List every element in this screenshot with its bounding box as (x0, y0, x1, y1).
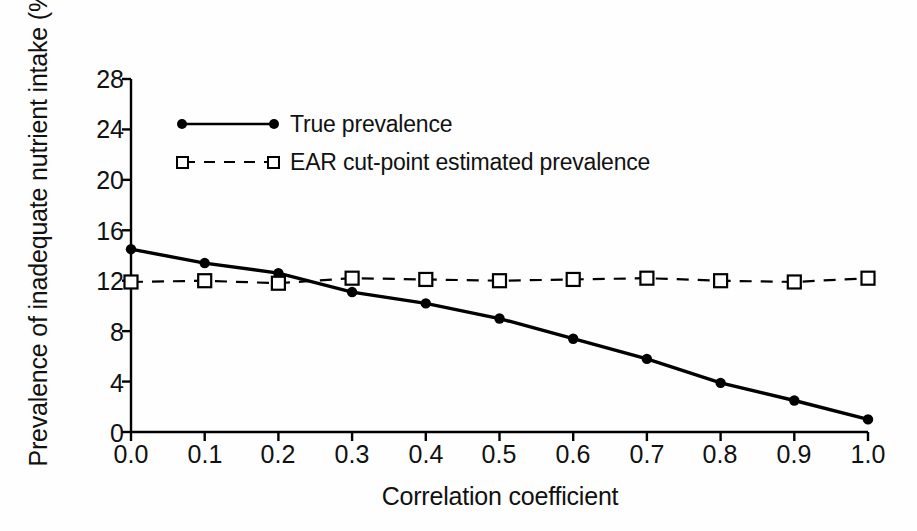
data-point-marker (493, 274, 506, 287)
data-point-marker (494, 313, 504, 323)
data-point-marker (419, 273, 432, 286)
data-point-marker (200, 258, 210, 268)
data-point-marker (714, 274, 727, 287)
data-point-marker (126, 244, 136, 254)
data-series-layer (125, 244, 875, 425)
axis-lines (122, 79, 868, 441)
plot-area (0, 0, 917, 531)
data-point-marker (347, 287, 357, 297)
data-point-marker (568, 334, 578, 344)
data-point-marker (272, 277, 285, 290)
data-point-marker (862, 272, 875, 285)
data-point-marker (567, 273, 580, 286)
data-point-marker (642, 354, 652, 364)
data-point-marker (198, 274, 211, 287)
data-point-marker (640, 272, 653, 285)
data-point-marker (421, 298, 431, 308)
data-point-marker (125, 275, 138, 288)
data-point-marker (715, 378, 725, 388)
chart-figure: Prevalence of inadequate nutrient intake… (0, 0, 917, 531)
data-point-marker (346, 272, 359, 285)
data-point-marker (863, 414, 873, 424)
data-point-marker (789, 395, 799, 405)
data-point-marker (788, 275, 801, 288)
